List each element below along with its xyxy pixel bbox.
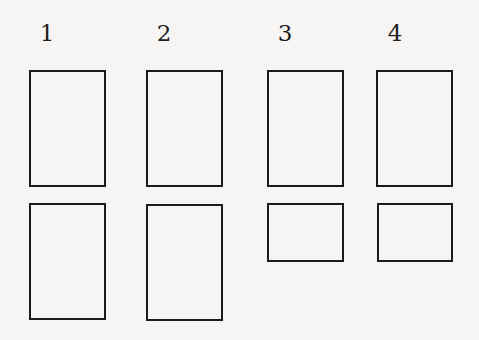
column-2-bottom-rectangle (146, 204, 223, 321)
column-3-bottom-rectangle (267, 203, 344, 262)
column-1-top-rectangle (29, 70, 106, 187)
column-2-top-rectangle (146, 70, 223, 187)
column-label-1: 1 (27, 20, 67, 46)
column-3-top-rectangle (267, 70, 344, 187)
column-label-3: 3 (265, 20, 305, 46)
column-1-bottom-rectangle (29, 203, 106, 320)
column-label-2: 2 (144, 20, 184, 46)
column-4-bottom-rectangle (377, 203, 453, 262)
column-4-top-rectangle (376, 70, 453, 187)
column-label-4: 4 (375, 20, 415, 46)
